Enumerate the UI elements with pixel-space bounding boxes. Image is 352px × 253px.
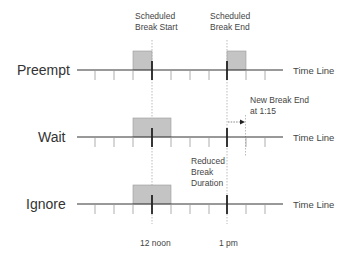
ticks bbox=[95, 70, 265, 80]
break-end-label-1: Scheduled bbox=[210, 11, 250, 21]
reduced-break-label-2: Break bbox=[191, 167, 214, 177]
axis-label-1pm: 1 pm bbox=[219, 238, 238, 248]
reduced-break-label-1: Reduced bbox=[191, 156, 225, 166]
row-label: Preempt bbox=[17, 62, 70, 78]
reduced-break-label-3: Duration bbox=[191, 178, 223, 188]
row-ignore: Ignore Time Line bbox=[26, 185, 334, 214]
break-box bbox=[227, 51, 246, 70]
ticks bbox=[95, 204, 265, 214]
new-break-end-label-1: New Break End bbox=[250, 95, 309, 105]
axis-label-noon: 12 noon bbox=[140, 238, 171, 248]
break-policy-diagram: Scheduled Break Start Scheduled Break En… bbox=[0, 0, 352, 253]
ticks bbox=[95, 137, 265, 147]
row-label: Ignore bbox=[26, 196, 66, 212]
row-label: Wait bbox=[38, 129, 66, 145]
break-start-label-1: Scheduled bbox=[135, 11, 175, 21]
new-break-end-label-2: at 1:15 bbox=[250, 106, 276, 116]
timeline-label: Time Line bbox=[293, 132, 334, 143]
break-box bbox=[133, 51, 152, 70]
arrowhead-icon bbox=[240, 120, 245, 125]
break-end-label-2: Break End bbox=[210, 22, 250, 32]
break-start-label-2: Break Start bbox=[135, 22, 178, 32]
row-preempt: Preempt Time Line bbox=[17, 51, 334, 80]
row-wait: New Break End at 1:15 Wait Time Line bbox=[38, 95, 334, 147]
timeline-label: Time Line bbox=[293, 65, 334, 76]
timeline-label: Time Line bbox=[293, 199, 334, 210]
